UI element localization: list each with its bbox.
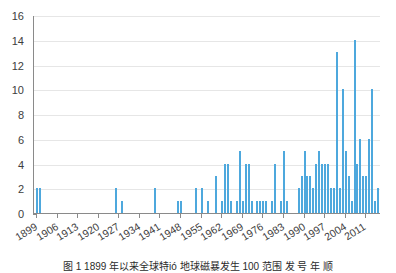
bar xyxy=(248,164,250,214)
gridline xyxy=(34,66,380,67)
bar xyxy=(304,151,306,213)
y-axis-tick: 14 xyxy=(0,41,30,42)
bar xyxy=(154,188,156,213)
bar xyxy=(298,188,300,213)
gridline xyxy=(34,140,380,141)
bar xyxy=(362,176,364,213)
bar xyxy=(356,164,358,214)
plot-area xyxy=(33,16,380,214)
bar xyxy=(215,176,217,213)
bar xyxy=(359,139,361,213)
bar xyxy=(265,201,267,213)
bar xyxy=(115,188,117,213)
bar xyxy=(306,176,308,213)
bar xyxy=(239,151,241,213)
bar xyxy=(330,188,332,213)
bar xyxy=(256,201,258,213)
bar xyxy=(318,151,320,213)
bar xyxy=(336,52,338,213)
bar xyxy=(251,201,253,213)
figure-caption: 图 1 1899 年以来全球特ió 地球磁暴发生 100 范围 发 号 年 顺 xyxy=(0,258,396,273)
bar xyxy=(351,201,353,213)
x-axis-tick-mark xyxy=(262,214,263,218)
bar xyxy=(177,201,179,213)
bar xyxy=(377,188,379,213)
x-axis-tick-mark xyxy=(345,214,346,218)
bar xyxy=(262,201,264,213)
y-axis-tick: 16 xyxy=(0,16,30,17)
y-axis-tick: 2 xyxy=(0,189,30,190)
x-axis-tick-mark xyxy=(159,214,160,218)
bar xyxy=(224,164,226,214)
x-axis-tick-mark xyxy=(98,214,99,218)
y-axis-tick: 6 xyxy=(0,140,30,141)
y-axis-tick: 8 xyxy=(0,115,30,116)
bar xyxy=(230,201,232,213)
bar xyxy=(374,201,376,213)
bar xyxy=(245,164,247,214)
bar xyxy=(195,188,197,213)
bar xyxy=(327,164,329,214)
bar xyxy=(321,164,323,214)
y-axis-tick-label: 0 xyxy=(18,208,24,220)
x-axis-tick-mark xyxy=(365,214,366,218)
bar xyxy=(227,164,229,214)
bar xyxy=(371,89,373,213)
bar xyxy=(207,201,209,213)
bar xyxy=(315,164,317,214)
bar xyxy=(312,188,314,213)
x-axis-tick-label: 2011 xyxy=(343,221,368,242)
y-axis-tick-label: 4 xyxy=(18,159,24,171)
bar xyxy=(259,201,261,213)
bar xyxy=(201,188,203,213)
bar xyxy=(348,176,350,213)
bar xyxy=(39,188,41,213)
bar xyxy=(283,151,285,213)
bar xyxy=(339,188,341,213)
bar xyxy=(342,89,344,213)
x-axis-tick-mark xyxy=(242,214,243,218)
y-axis-tick-label: 8 xyxy=(18,109,24,121)
bar xyxy=(121,201,123,213)
bar xyxy=(271,201,273,213)
y-axis-tick-label: 16 xyxy=(12,10,24,22)
bar xyxy=(368,139,370,213)
gridline xyxy=(34,115,380,116)
x-axis-tick-mark xyxy=(304,214,305,218)
y-axis-tick-label: 6 xyxy=(18,134,24,146)
x-axis-tick-mark xyxy=(77,214,78,218)
y-axis-tick: 0 xyxy=(0,214,30,215)
y-axis-tick: 12 xyxy=(0,66,30,67)
bar xyxy=(286,201,288,213)
bar xyxy=(365,176,367,213)
y-axis-tick-label: 14 xyxy=(12,35,24,47)
bar xyxy=(301,176,303,213)
bar xyxy=(236,201,238,213)
x-axis-tick-mark xyxy=(118,214,119,218)
bar xyxy=(345,151,347,213)
x-axis-tick-mark xyxy=(283,214,284,218)
gridline xyxy=(34,90,380,91)
y-axis-tick-label: 12 xyxy=(12,60,24,72)
y-axis-tick-label: 2 xyxy=(18,183,24,195)
gridline xyxy=(34,16,380,17)
x-axis-tick-mark xyxy=(221,214,222,218)
y-axis-tick: 10 xyxy=(0,90,30,91)
x-axis-tick-mark xyxy=(139,214,140,218)
x-axis-tick-mark xyxy=(36,214,37,218)
bar xyxy=(333,188,335,213)
bar xyxy=(180,201,182,213)
bar xyxy=(324,164,326,214)
bar xyxy=(309,176,311,213)
bar xyxy=(354,40,356,213)
bar xyxy=(280,201,282,213)
bar xyxy=(274,164,276,214)
gridline xyxy=(34,41,380,42)
y-axis-tick: 4 xyxy=(0,165,30,166)
bar xyxy=(221,201,223,213)
x-axis-tick-mark xyxy=(57,214,58,218)
bar xyxy=(36,188,38,213)
bar xyxy=(242,201,244,213)
x-axis-tick-mark xyxy=(180,214,181,218)
